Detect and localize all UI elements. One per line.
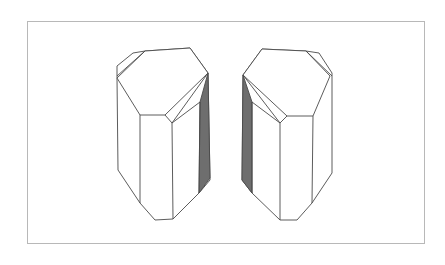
crystal-diagram	[0, 0, 445, 265]
left-crystal	[117, 48, 210, 220]
diagram-frame	[28, 22, 425, 244]
right-crystal	[242, 49, 332, 220]
